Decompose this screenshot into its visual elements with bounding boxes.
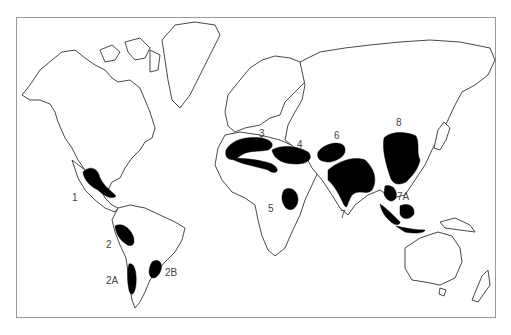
label-region-7A: 7A <box>397 192 409 202</box>
label-region-1: 1 <box>72 193 78 203</box>
label-region-8: 8 <box>396 118 402 128</box>
label-region-3: 3 <box>259 129 265 139</box>
new-zealand-outline <box>472 270 490 302</box>
region-7A-islands <box>380 204 425 233</box>
greenland-outline <box>162 22 220 108</box>
tasmania-outline <box>439 288 446 296</box>
new-guinea-outline <box>440 218 475 232</box>
australia-outline <box>405 232 462 285</box>
label-region-6: 6 <box>334 131 340 141</box>
label-region-2: 2 <box>106 240 112 250</box>
label-region-4: 4 <box>297 140 303 150</box>
world-map <box>0 0 511 335</box>
label-region-7: 7 <box>340 210 346 220</box>
label-region-5: 5 <box>268 204 274 214</box>
label-region-2A: 2A <box>106 276 118 286</box>
arctic-islands-outline <box>100 38 160 72</box>
south-america-outline <box>112 205 185 308</box>
label-region-2B: 2B <box>165 268 177 278</box>
